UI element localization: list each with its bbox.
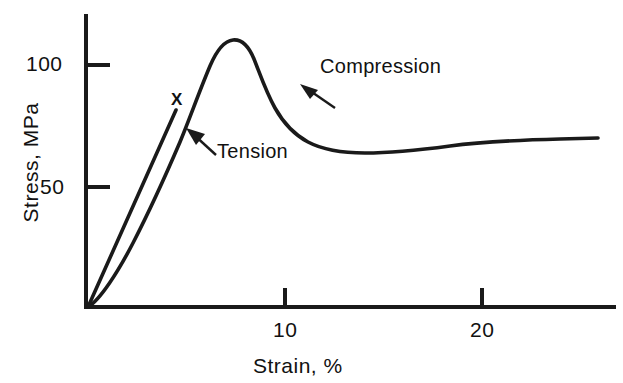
x-tick-label-10: 10 [273,319,297,340]
y-tick-label-50: 50 [40,176,64,197]
compression-arrow-head [300,84,318,99]
compression-curve [88,40,598,307]
y-axis-title: Stress, MPa [20,103,41,223]
x-tick-label-20: 20 [470,319,494,340]
y-tick-label-100: 100 [26,53,63,74]
x-axis-title: Strain, % [253,355,343,376]
tension-curve [88,110,176,307]
compression-series-label: Compression [320,56,441,76]
plot-canvas [0,0,623,383]
fracture-marker-label: X [171,91,182,108]
stress-strain-chart: 100 50 10 20 Strain, % Stress, MPa Compr… [0,0,623,383]
tension-series-label: Tension [217,141,288,161]
